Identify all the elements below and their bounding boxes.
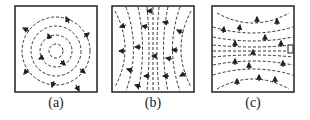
panel-label-c: (c) bbox=[211, 95, 295, 111]
arrow-icon bbox=[23, 17, 89, 91]
field-diagram-horizontal-saddle bbox=[211, 5, 295, 93]
panel-a bbox=[14, 5, 98, 93]
panel-b bbox=[111, 5, 195, 93]
panel-label-a: (a) bbox=[14, 95, 98, 111]
field-diagram-circular bbox=[14, 5, 98, 93]
panel-label-b: (b) bbox=[111, 95, 195, 111]
field-diagram-vertical-saddle bbox=[111, 5, 195, 93]
panel-c bbox=[211, 5, 295, 93]
